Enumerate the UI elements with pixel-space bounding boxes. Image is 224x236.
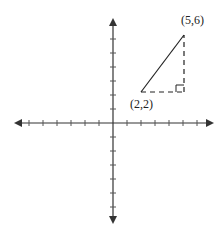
- point-label-bottom: (2,2): [130, 97, 153, 111]
- coordinate-plane: (5,6) (2,2): [0, 0, 224, 236]
- x-axis: [16, 120, 212, 126]
- y-axis: [110, 20, 116, 222]
- point-label-top: (5,6): [181, 13, 204, 27]
- right-angle-marker: [176, 85, 184, 92]
- hypotenuse: [141, 35, 184, 92]
- right-triangle: [141, 35, 184, 92]
